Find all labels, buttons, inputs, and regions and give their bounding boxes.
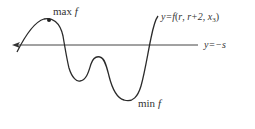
function-curve [17,16,158,101]
max-text: max [53,5,72,17]
curve-label-prefix: y=f [161,11,175,22]
max-point [47,18,51,22]
diagram-canvas: max f min f y=f(r, r+2, x3) y=−s [0,0,255,129]
min-label: min f [138,98,161,109]
max-label: max f [53,6,78,17]
max-var: f [75,5,78,17]
curve-close-paren: ) [216,11,219,22]
min-var: f [158,97,161,109]
line-label: y=−s [204,40,226,50]
curve-label: y=f(r, r+2, x3) [161,12,219,24]
min-text: min [138,97,155,109]
curve-arg-2: r+2 [187,11,203,22]
